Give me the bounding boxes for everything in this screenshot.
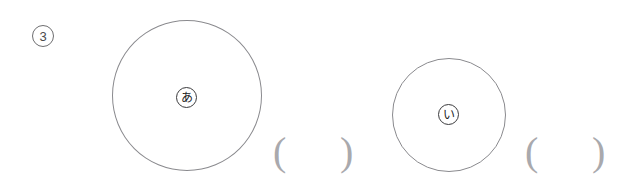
item-number-text: 3 [39, 30, 46, 43]
answer-blank-2-open-paren: ( [525, 132, 538, 172]
circle-label-a: あ [176, 87, 197, 108]
answer-blank-2-close-paren: ) [592, 132, 605, 172]
worksheet-item: 3 あ ( ) い ( ) [0, 0, 640, 188]
answer-blank-1-open-paren: ( [273, 132, 286, 172]
answer-blank-1-close-paren: ) [340, 132, 353, 172]
item-number-badge: 3 [32, 25, 54, 47]
circle-label-i-text: い [443, 109, 455, 121]
circle-label-i: い [438, 104, 459, 125]
circle-label-a-text: あ [181, 92, 193, 104]
